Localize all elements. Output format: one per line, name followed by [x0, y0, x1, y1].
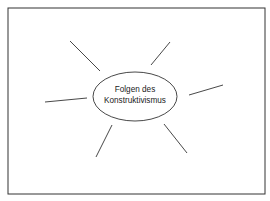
branch-left	[45, 98, 87, 102]
center-label-line1: Folgen des	[93, 84, 177, 95]
center-label-line2: Konstruktivismus	[93, 95, 177, 106]
branch-right	[189, 85, 223, 95]
branch-bottom-right	[164, 124, 187, 153]
branch-bottom-left	[96, 125, 112, 157]
branch-top-right	[151, 42, 170, 65]
center-label: Folgen des Konstruktivismus	[93, 84, 177, 106]
branch-top-left	[70, 41, 100, 71]
